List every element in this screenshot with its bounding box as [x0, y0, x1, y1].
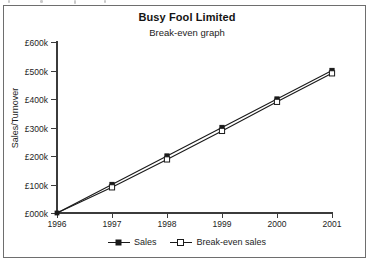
- data-point-marker: [164, 157, 169, 162]
- chart-legend: Sales Break-even sales: [0, 238, 374, 247]
- hollow-square-marker-icon: [170, 238, 192, 247]
- legend-entry-sales[interactable]: Sales: [108, 238, 157, 247]
- data-point-marker: [329, 71, 334, 76]
- data-point-marker-origin: [55, 211, 60, 216]
- data-point-marker: [219, 128, 224, 133]
- series-line-sales: [57, 71, 332, 214]
- legend-entry-break-even-sales[interactable]: Break-even sales: [170, 238, 266, 247]
- legend-label-sales: Sales: [134, 238, 157, 247]
- plot-series-layer: [0, 0, 374, 263]
- data-point-marker: [109, 185, 114, 190]
- legend-label-break-even-sales: Break-even sales: [196, 238, 266, 247]
- filled-square-marker-icon: [108, 238, 130, 247]
- data-point-marker: [274, 99, 279, 104]
- chart-figure: Busy Fool Limited Break-even graph Sales…: [0, 0, 374, 263]
